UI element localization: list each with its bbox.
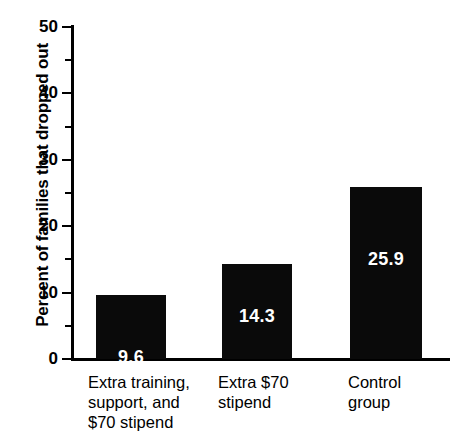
y-axis-tick-label: 20 [18,217,58,234]
y-axis-tick-label: 0 [18,350,58,367]
y-axis-minor-tick [65,192,71,194]
y-axis-minor-tick [65,59,71,61]
bar[interactable]: 25.9 [350,187,422,359]
y-axis-tick-label: 40 [18,84,58,101]
bar-value-label: 25.9 [350,249,422,270]
y-axis-tick-label-wrap: 50 [12,18,58,36]
x-axis-category-label: Control group [348,372,401,412]
y-axis-tick-label-wrap: 30 [12,151,58,169]
y-axis-tick-label-wrap: 20 [12,217,58,235]
y-axis-minor-tick [65,258,71,260]
y-axis-tick-label: 30 [18,151,58,168]
y-axis-tick-label-wrap: 0 [12,350,58,368]
y-axis-tick-label: 50 [18,18,58,35]
bar-chart: Percent of families that dropped out 010… [0,0,458,446]
x-axis-category-label: Extra $70 stipend [218,372,289,412]
y-axis-title: Percent of families that dropped out [30,15,56,355]
y-axis-tick-label: 10 [18,284,58,301]
bar[interactable]: 14.3 [222,264,292,359]
y-axis-major-tick [62,358,71,360]
y-axis-tick-label-wrap: 40 [12,84,58,102]
y-axis-major-tick [62,292,71,294]
bar-value-label: 14.3 [222,306,292,327]
y-axis-minor-tick [65,325,71,327]
y-axis-major-tick [62,225,71,227]
bar[interactable]: 9.6 [96,295,166,359]
bar-value-label: 9.6 [96,347,166,368]
y-axis-minor-tick [65,126,71,128]
x-axis-category-label: Extra training, support, and $70 stipend [88,372,190,432]
y-axis-major-tick [62,159,71,161]
y-axis-tick-label-wrap: 10 [12,284,58,302]
plot-area: 9.614.325.9 [72,27,450,359]
y-axis-major-tick [62,92,71,94]
y-axis-major-tick [62,26,71,28]
